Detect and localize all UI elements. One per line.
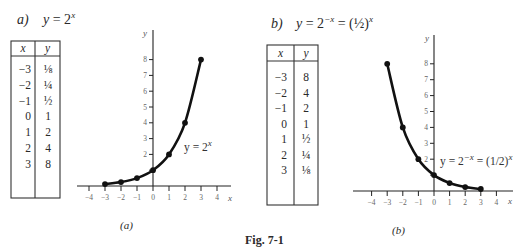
cell-y: ½ [44,95,53,107]
curve-label-a: y = 2x [184,138,212,154]
data-point [102,181,108,187]
x-tick-label: −4 [85,193,93,202]
y-axis-label: y [424,33,429,43]
data-point [198,57,204,63]
panel-a-title: a) y = 2x [17,10,75,28]
data-point [384,61,390,67]
x-axis-label: x [507,196,512,206]
panel-b-eq-eq: = 2 [302,16,324,31]
table-row: 01 [25,110,51,122]
x-tick-label: 3 [479,198,483,207]
x-tick-label: −1 [414,198,422,207]
plot-b: xy−4−3−2−1012342345678 [353,33,513,207]
x-axis-label: x [227,193,232,203]
x-tick-label: 2 [183,193,187,202]
curve-label-b-sup1: −x [464,152,474,162]
figure-caption: Fig. 7-1 [245,233,284,247]
y-tick-label: 4 [143,118,147,127]
sub-caption-b: (b) [392,224,405,237]
panel-a-eq-sup: x [70,10,75,20]
data-point [462,184,468,190]
data-point [416,156,422,162]
data-point [431,172,437,178]
y-tick-label: 8 [424,59,428,68]
x-tick-label: 0 [151,193,155,202]
x-tick-label: −2 [399,198,407,207]
cell-x: −1 [275,102,287,114]
x-tick-label: −3 [383,198,391,207]
table-row: 24 [25,142,51,154]
cell-y: ⅛ [302,164,311,176]
table-row: 3⅛ [281,164,310,176]
y-tick-label: 4 [424,123,428,132]
y-tick-label: 7 [424,75,428,84]
y-tick-label: 5 [143,103,147,112]
panel-b-eq-rest: = (½) [334,16,369,32]
cell-x: 0 [25,110,31,122]
sub-caption-a: (a) [120,219,133,232]
table-row: 1½ [281,133,310,145]
column-header-y: y [302,47,309,60]
cell-y: ⅛ [44,63,53,75]
cell-x: −2 [19,79,31,91]
y-tick-label: 6 [424,91,428,100]
column-header-y: y [44,42,51,55]
data-point [182,120,188,126]
x-tick-label: −2 [117,193,125,202]
x-tick-label: 2 [463,198,467,207]
data-point [478,186,484,192]
table-row: 01 [281,118,309,130]
cell-y: 4 [45,142,51,154]
table-row: 12 [25,126,51,138]
data-point [134,175,140,181]
panel-a-label: a) [17,12,29,28]
cell-x: 1 [25,126,31,138]
cell-y: 8 [303,71,309,83]
y-tick-label: 3 [143,134,147,143]
cell-y: 2 [45,126,51,138]
plot-a: xy−4−3−2−1012342345678 [77,28,232,203]
cell-y: 1 [303,118,309,130]
table-row: −3⅛ [19,63,53,75]
value-table-b: xy−38−24−12011½2¼3⅛ [267,45,318,205]
x-tick-label: 4 [215,193,219,202]
cell-x: −3 [19,63,31,75]
column-header-x: x [19,42,26,54]
curve-label-b-rest: = (1/2) [474,155,509,168]
panel-b-eq-sup2: x [368,14,373,24]
y-axis-label: y [142,28,147,38]
data-point [447,180,453,186]
panel-b-label: b) [271,16,283,32]
data-point [150,167,156,173]
cell-x: −3 [275,71,287,83]
table-row: −38 [275,71,309,83]
cell-x: −2 [275,87,287,99]
cell-y: 4 [303,87,309,99]
panel-a-eq-eq: = 2 [49,12,71,27]
x-tick-label: 4 [495,198,499,207]
table-row: −1½ [19,95,53,107]
y-tick-label: 3 [424,139,428,148]
y-tick-label: 5 [424,107,428,116]
table-row: 2¼ [281,149,310,161]
curve-label-b-sup2: x [507,152,512,162]
cell-y: ¼ [302,149,311,161]
y-tick-label: 2 [424,155,428,164]
curve-label-b: y = 2−x = (1/2)x [440,152,512,168]
table-row: −12 [275,102,309,114]
cell-x: 3 [281,164,287,176]
cell-x: −1 [19,95,31,107]
table-row: −24 [275,87,309,99]
x-tick-label: 1 [448,198,452,207]
curve-label-a-main: y = 2 [184,141,208,154]
cell-x: 2 [25,142,31,154]
x-tick-label: 3 [199,193,203,202]
cell-x: 3 [25,158,31,170]
cell-x: 2 [281,149,287,161]
cell-y: 1 [45,110,51,122]
figure-7-1: a) y = 2x b) y = 2−x = (½)x xy−3⅛−2¼−1½0… [0,0,521,251]
x-tick-label: −1 [133,193,141,202]
x-tick-label: −4 [368,198,376,207]
y-tick-label: 8 [143,55,147,64]
x-tick-label: −3 [101,193,109,202]
